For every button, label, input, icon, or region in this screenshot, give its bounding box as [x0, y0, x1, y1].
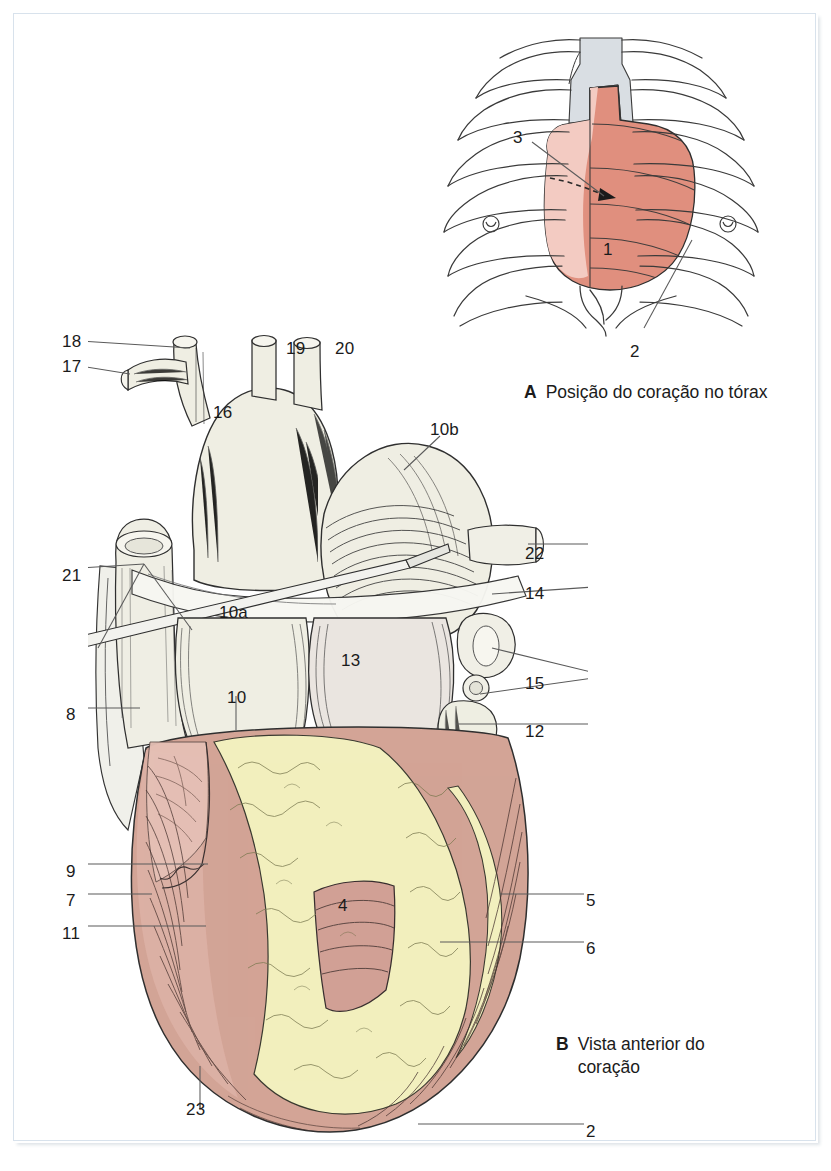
figure-b-label-10: 10	[227, 689, 246, 706]
figure-b-caption: BVista anterior docoração	[556, 1033, 776, 1079]
figure-b-caption-text: Vista anterior docoração	[578, 1033, 705, 1079]
figure-a-label-3: 3	[513, 129, 523, 146]
heart-body	[131, 727, 528, 1134]
figure-b-label-9: 9	[66, 863, 76, 880]
nipple-marker-left	[483, 216, 499, 232]
figure-b-label-10a: 10a	[219, 604, 248, 621]
figure-b-label-4: 4	[338, 897, 348, 914]
figure-a-label-1: 1	[603, 241, 613, 258]
figure-b-label-22: 22	[525, 545, 544, 562]
figure-b-caption-line2: coração	[578, 1057, 640, 1077]
right-pulmonary-veins	[457, 614, 515, 701]
figure-b-caption-letter: B	[556, 1034, 569, 1054]
figure-b-label-7: 7	[66, 892, 76, 909]
figure-b-label-8: 8	[66, 706, 76, 723]
figure-b-label-14: 14	[525, 585, 544, 602]
figure-a-thorax	[440, 28, 800, 358]
figure-b-label-2: 2	[586, 1123, 596, 1140]
figure-b-label-15: 15	[525, 675, 544, 692]
figure-b-label-16: 16	[213, 404, 232, 421]
figure-b-label-19: 19	[286, 340, 305, 357]
figure-b-label-6: 6	[586, 940, 596, 957]
figure-b-label-23: 23	[186, 1101, 205, 1118]
figure-b-label-17: 17	[62, 358, 81, 375]
figure-b-label-20: 20	[335, 340, 354, 357]
figure-b-label-21: 21	[62, 567, 81, 584]
nipple-marker-right	[720, 216, 736, 232]
figure-b-label-5: 5	[586, 892, 596, 909]
figure-b-caption-line1: Vista anterior do	[578, 1034, 705, 1054]
figure-b-label-13: 13	[341, 652, 360, 669]
figure-b-label-10b: 10b	[430, 421, 459, 438]
figure-a-label-2: 2	[630, 343, 640, 360]
figure-b-heart	[88, 318, 588, 1148]
figure-b-label-18: 18	[62, 333, 81, 350]
figure-b-label-12: 12	[525, 723, 544, 740]
figure-b-label-11: 11	[62, 925, 80, 942]
